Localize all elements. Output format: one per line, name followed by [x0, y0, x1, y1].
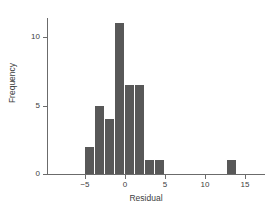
x-axis-tick: [125, 175, 126, 179]
plot-area: 0510−5051015 Frequency Residual: [0, 0, 278, 212]
histogram-bar: [95, 106, 105, 175]
histogram-bar: [145, 160, 155, 174]
y-axis-line: [47, 18, 48, 175]
x-axis-tick-label: −5: [73, 181, 97, 189]
x-axis-tick-label: 15: [233, 181, 257, 189]
y-axis-tick-label: 0: [18, 170, 40, 178]
x-axis-tick: [245, 175, 246, 179]
histogram-figure: 0510−5051015 Frequency Residual: [0, 0, 278, 212]
y-axis-tick-label: 5: [18, 102, 40, 110]
y-axis-tick-label: 10: [18, 33, 40, 41]
histogram-bar: [135, 85, 145, 174]
histogram-bar: [115, 23, 125, 174]
x-axis-tick-label: 0: [113, 181, 137, 189]
y-axis-tick: [43, 174, 47, 175]
x-axis-line: [47, 174, 265, 175]
histogram-bar: [125, 85, 135, 174]
y-axis-tick: [43, 106, 47, 107]
x-axis-tick-label: 5: [153, 181, 177, 189]
x-axis-title: Residual: [86, 193, 206, 203]
histogram-bar: [155, 160, 165, 174]
histogram-bar: [85, 147, 95, 174]
x-axis-tick: [205, 175, 206, 179]
x-axis-tick-label: 10: [193, 181, 217, 189]
histogram-bar: [227, 160, 237, 174]
y-axis-tick: [43, 37, 47, 38]
y-axis-title: Frequency: [7, 47, 17, 119]
x-axis-tick: [165, 175, 166, 179]
x-axis-tick: [85, 175, 86, 179]
histogram-bar: [105, 119, 115, 174]
